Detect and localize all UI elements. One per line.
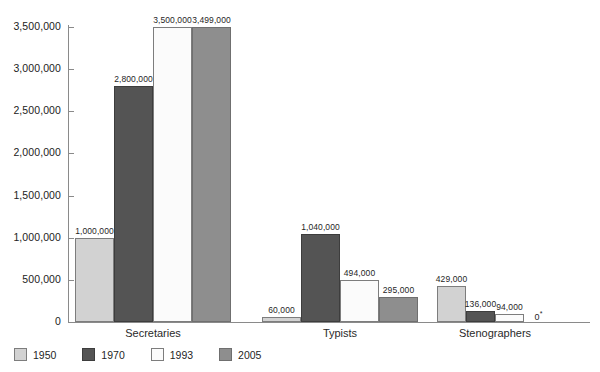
bar-1970-secretaries — [114, 86, 153, 322]
bar-1993-secretaries — [153, 27, 192, 322]
x-axis-line — [68, 322, 590, 323]
bar-value-label: 494,000 — [330, 268, 389, 278]
y-axis-tick-label: 3,500,000 — [0, 20, 61, 32]
legend-swatch-icon — [14, 348, 27, 361]
x-axis-category-label-typists: Typists — [270, 327, 410, 339]
legend-item-1950[interactable]: 1950 — [14, 348, 56, 361]
bar-value-label: 295,000 — [369, 285, 428, 295]
bar-2005-secretaries — [192, 27, 231, 322]
x-axis-category-label-stenographers: Stenographers — [425, 327, 565, 339]
bar-1950-secretaries — [75, 238, 114, 322]
bar-1950-typists — [262, 317, 301, 322]
bar-value-label: 3,499,000 — [182, 15, 241, 25]
legend-item-2005[interactable]: 2005 — [219, 348, 261, 361]
legend-item-label: 2005 — [238, 349, 261, 361]
bar-value-label: 429,000 — [427, 274, 476, 284]
y-axis-tick-label: 1,500,000 — [0, 189, 61, 201]
footnote-asterisk: * — [540, 310, 543, 317]
legend-item-label: 1950 — [33, 349, 56, 361]
legend-item-1970[interactable]: 1970 — [82, 348, 124, 361]
legend-item-1993[interactable]: 1993 — [151, 348, 193, 361]
legend-item-label: 1970 — [101, 349, 124, 361]
y-axis-tick-label: 2,000,000 — [0, 146, 61, 158]
bar-chart: 0500,0001,000,0001,500,0002,000,0002,500… — [0, 0, 600, 372]
legend-item-label: 1993 — [170, 349, 193, 361]
legend-swatch-icon — [82, 348, 95, 361]
y-axis-tick-label: 2,500,000 — [0, 104, 61, 116]
y-axis-tick-label: 0 — [0, 315, 61, 327]
y-axis-tick-label: 3,000,000 — [0, 62, 61, 74]
bar-value-label: 1,040,000 — [291, 222, 350, 232]
y-axis-tick-label: 500,000 — [0, 273, 61, 285]
legend-swatch-icon — [151, 348, 164, 361]
x-axis-category-label-secretaries: Secretaries — [83, 327, 223, 339]
bar-value-label: 0* — [514, 310, 563, 322]
plot-area: 1,000,0002,800,0003,500,0003,499,00060,0… — [68, 27, 590, 322]
bar-1970-stenographers — [466, 311, 495, 322]
y-axis-tick-label: 1,000,000 — [0, 231, 61, 243]
legend-swatch-icon — [219, 348, 232, 361]
bar-2005-typists — [379, 297, 418, 322]
chart-legend: 1950197019932005 — [14, 348, 287, 361]
